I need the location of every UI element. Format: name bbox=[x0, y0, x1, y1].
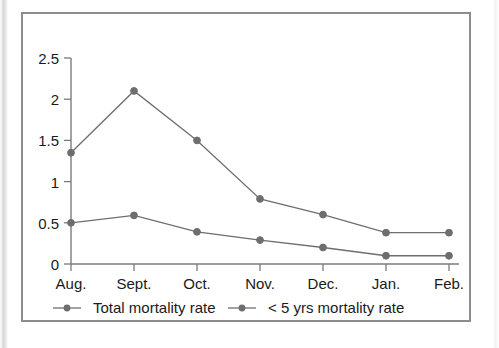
line-chart: 00.511.522.5 Aug.Sept.Oct.Nov.Dec.Jan.Fe… bbox=[23, 14, 473, 324]
y-tick-label: 1.5 bbox=[38, 132, 59, 149]
x-axis-ticks bbox=[71, 264, 449, 271]
data-point bbox=[257, 237, 264, 244]
y-tick-label: 0.5 bbox=[38, 215, 59, 232]
page-right-edge-shadow bbox=[493, 0, 499, 348]
data-point bbox=[68, 149, 75, 156]
x-tick-label: Jan. bbox=[372, 275, 400, 292]
x-tick-label: Dec. bbox=[308, 275, 339, 292]
series-lines bbox=[71, 91, 449, 256]
figure-frame: 00.511.522.5 Aug.Sept.Oct.Nov.Dec.Jan.Fe… bbox=[21, 12, 471, 322]
data-point bbox=[194, 228, 201, 235]
data-point bbox=[131, 212, 138, 219]
data-point bbox=[320, 244, 327, 251]
data-point bbox=[194, 137, 201, 144]
legend-label-1: Total mortality rate bbox=[93, 299, 216, 316]
series-line-2 bbox=[71, 215, 449, 255]
y-tick-label: 0 bbox=[51, 256, 59, 273]
legend-label-2: < 5 yrs mortality rate bbox=[268, 299, 404, 316]
data-point bbox=[68, 219, 75, 226]
x-tick-label: Aug. bbox=[56, 275, 87, 292]
x-tick-label: Nov. bbox=[245, 275, 275, 292]
y-tick-label: 2 bbox=[51, 91, 59, 108]
legend-marker-dot-2 bbox=[239, 305, 246, 312]
series-markers bbox=[68, 88, 453, 260]
chart-legend: Total mortality rate< 5 yrs mortality ra… bbox=[53, 299, 404, 316]
y-axis-tick-labels: 00.511.522.5 bbox=[38, 50, 59, 273]
data-point bbox=[383, 229, 390, 236]
page-left-edge-shadow bbox=[0, 0, 8, 348]
data-point bbox=[257, 196, 264, 203]
data-point bbox=[446, 252, 453, 259]
data-point bbox=[446, 229, 453, 236]
series-line-1 bbox=[71, 91, 449, 233]
page-canvas: 00.511.522.5 Aug.Sept.Oct.Nov.Dec.Jan.Fe… bbox=[0, 0, 499, 348]
x-axis-tick-labels: Aug.Sept.Oct.Nov.Dec.Jan.Feb. bbox=[56, 275, 464, 292]
chart-svg: 00.511.522.5 Aug.Sept.Oct.Nov.Dec.Jan.Fe… bbox=[23, 14, 473, 324]
x-tick-label: Oct. bbox=[183, 275, 211, 292]
legend-marker-dot-1 bbox=[64, 305, 71, 312]
x-tick-label: Sept. bbox=[116, 275, 151, 292]
x-tick-label: Feb. bbox=[434, 275, 464, 292]
data-point bbox=[383, 252, 390, 259]
y-tick-label: 1 bbox=[51, 174, 59, 191]
data-point bbox=[320, 211, 327, 218]
y-axis-ticks bbox=[64, 58, 71, 264]
data-point bbox=[131, 88, 138, 95]
y-tick-label: 2.5 bbox=[38, 50, 59, 67]
